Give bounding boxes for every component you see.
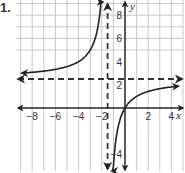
grid	[16, 0, 183, 171]
y-tick-label: 8	[116, 10, 122, 21]
asymptotes	[18, 4, 182, 169]
y-tick-label: −4	[111, 149, 123, 160]
y-axis-label: y	[129, 0, 135, 12]
curves	[22, 2, 179, 171]
curve-left-branch	[22, 2, 103, 73]
x-axis-label: x	[175, 109, 181, 121]
y-tick-label: 4	[116, 57, 122, 68]
x-tick-label: −8	[26, 111, 38, 122]
x-tick-label: 4	[169, 111, 175, 122]
y-tick-label: 2	[116, 80, 122, 91]
tick-labels: −8−6−4−2248642−4	[26, 10, 174, 160]
y-tick-label: 6	[116, 33, 122, 44]
x-tick-label: −6	[50, 111, 62, 122]
chart: xy −8−6−4−2248642−4	[0, 0, 185, 173]
x-tick-label: −4	[73, 111, 85, 122]
x-tick-label: 2	[145, 111, 151, 122]
x-tick-label: −2	[96, 111, 108, 122]
axes: xy	[18, 0, 183, 170]
